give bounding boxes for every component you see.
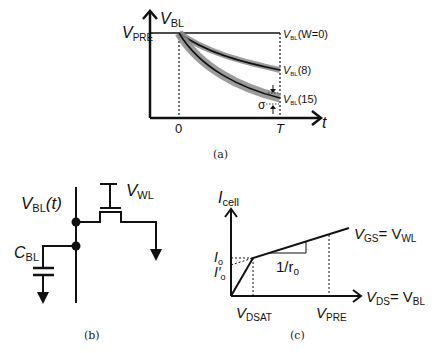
figure-canvas: VBL VPRE t 0 T σ VBL(W=0) VBL(8) VBL(15)… xyxy=(0,0,442,353)
curve-15-label: VBL(15) xyxy=(283,93,317,106)
ground-arrow-transistor-icon xyxy=(150,249,162,261)
figure-b: VBL(t) VWL CBL (b) xyxy=(14,181,162,342)
transistor-source-wire xyxy=(76,212,156,251)
tick-T-label: T xyxy=(276,121,285,136)
y-axis-label: VBL xyxy=(160,10,184,29)
x-axis-label: t xyxy=(322,114,327,131)
caption-b: (b) xyxy=(84,329,100,342)
vpre-c-label: VPRE xyxy=(316,304,347,323)
vds-label: VDS= VBL xyxy=(366,288,426,307)
io-prime-label: I′o xyxy=(214,264,226,282)
ground-arrow-capacitor-icon xyxy=(37,292,49,304)
curve-w0-label: VBL(W=0) xyxy=(283,28,328,41)
caption-c: (c) xyxy=(290,329,305,342)
vgs-label: VGS= VWL xyxy=(354,225,417,244)
figure-a: VBL VPRE t 0 T σ VBL(W=0) VBL(8) VBL(15)… xyxy=(122,10,328,161)
figure-c: Icell VGS= VWL VDS= VBL Io I′o 1/ro VDSA… xyxy=(214,189,426,342)
vbl-t-label: VBL(t) xyxy=(21,194,62,214)
vdsat-label: VDSAT xyxy=(236,304,272,323)
tick-zero-label: 0 xyxy=(175,121,182,136)
sigma-arrowhead-bottom-icon xyxy=(270,105,276,109)
cbl-label: CBL xyxy=(14,244,39,263)
curve-8-label: VBL(8) xyxy=(283,64,311,77)
icell-label: Icell xyxy=(218,189,239,208)
slope-label: 1/ro xyxy=(276,258,300,277)
sigma-label: σ xyxy=(258,98,266,112)
caption-a: (a) xyxy=(213,148,228,161)
vwl-label: VWL xyxy=(126,181,154,201)
capacitor-wire xyxy=(43,246,76,268)
